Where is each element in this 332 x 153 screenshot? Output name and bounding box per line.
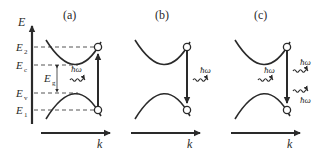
svg-text:v: v (24, 94, 28, 102)
valence-band-curve (135, 94, 190, 119)
valence-band-curve (46, 94, 101, 119)
photon-energy-label-in: ħω (264, 65, 275, 75)
svg-text:E: E (15, 41, 23, 53)
photon-energy-label-out-2: ħω (300, 95, 311, 105)
band-gap-label: E g (43, 72, 56, 87)
photon-wavy-arrow-in (70, 79, 85, 82)
photon-energy-label-out-1: ħω (300, 57, 311, 67)
svg-text:2: 2 (24, 48, 28, 56)
electron-state-upper (94, 43, 101, 50)
panel-a-label: (a) (63, 8, 76, 22)
level-label-E2: E 2 (15, 41, 28, 56)
photon-energy-label: ħω (71, 64, 82, 74)
photon-wavy-arrow-out-1 (293, 70, 308, 73)
energy-axis-label: E (17, 15, 26, 29)
electron-state-upper (283, 43, 290, 50)
momentum-axis-label: k (287, 137, 293, 151)
momentum-axis-label: k (97, 137, 103, 151)
photon-wavy-arrow-out-2 (293, 90, 308, 93)
svg-text:g: g (52, 79, 56, 87)
svg-text:E: E (15, 59, 23, 71)
svg-text:E: E (15, 87, 23, 99)
level-label-Ev: E v (15, 87, 28, 102)
valence-band-curve (235, 94, 290, 119)
svg-text:c: c (24, 66, 27, 74)
svg-text:E: E (15, 104, 23, 116)
momentum-axis-label: k (187, 137, 193, 151)
electron-state-lower (183, 106, 190, 113)
panel-b: (b) ħω k (131, 8, 211, 151)
band-diagram-figure: (a) E E 2 E c E v E 1 E (0, 0, 332, 153)
electron-state-upper (183, 43, 190, 50)
electron-state-lower (283, 106, 290, 113)
level-label-E1: E 1 (15, 104, 28, 119)
panel-c-label: (c) (254, 8, 267, 22)
electron-state-lower (94, 106, 101, 113)
panel-c: (c) ħω ħω ħω k (231, 8, 311, 151)
panel-b-label: (b) (155, 8, 169, 22)
svg-text:E: E (43, 72, 51, 84)
svg-text:1: 1 (24, 111, 28, 119)
photon-wavy-arrow-in (258, 79, 273, 82)
conduction-band-curve (46, 40, 101, 65)
photon-wavy-arrow-out (193, 79, 208, 82)
conduction-band-curve (135, 40, 190, 65)
photon-energy-label: ħω (200, 65, 211, 75)
level-label-Ec: E c (15, 59, 27, 74)
conduction-band-curve (235, 40, 290, 65)
panel-a: (a) E E 2 E c E v E 1 E (15, 8, 110, 151)
